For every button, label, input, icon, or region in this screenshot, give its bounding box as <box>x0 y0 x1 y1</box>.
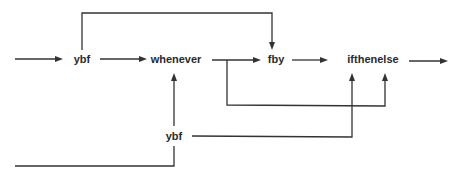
edge-input-to-ybf <box>15 56 63 62</box>
edge-ybf-lower-to-whenever <box>171 73 177 126</box>
node-ybf-lower: ybf <box>166 130 183 142</box>
arrowhead-icon <box>253 57 261 63</box>
node-whenever: whenever <box>150 53 202 65</box>
arrowhead-icon <box>139 56 147 62</box>
arrowhead-icon <box>320 57 328 63</box>
dataflow-diagram: ybf whenever fby ifthenelse ybf <box>0 0 467 177</box>
edge-whenever-to-ifthenelse <box>227 60 388 106</box>
node-ifthenelse: ifthenelse <box>347 53 398 65</box>
arrowhead-icon <box>440 58 448 64</box>
node-ybf-main: ybf <box>74 53 91 65</box>
arrowhead-icon <box>55 56 63 62</box>
edge-input-to-ybf-lower <box>15 146 174 166</box>
edge-ybf-to-whenever <box>100 56 147 62</box>
arrowhead-icon <box>382 73 388 81</box>
edge-fby-to-ifthenelse <box>292 57 328 63</box>
edge-ifthenelse-to-output <box>409 58 448 64</box>
edge-ybf-to-fby-top <box>82 13 275 50</box>
arrowhead-icon <box>269 42 275 50</box>
arrowhead-icon <box>171 73 177 81</box>
node-fby: fby <box>268 53 285 65</box>
arrowhead-icon <box>349 73 355 81</box>
edge-whenever-to-fby <box>212 57 261 63</box>
